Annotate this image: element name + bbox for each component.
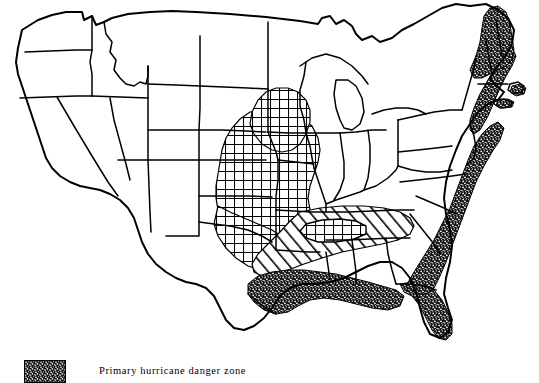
legend-item: Primary hurricane danger zone (24, 360, 246, 383)
zone-secondary-hatch-pocket (300, 219, 366, 242)
legend-label-primary-hurricane-danger-zone: Primary hurricane danger zone (99, 360, 246, 381)
stipple-swatch-svg (25, 361, 65, 382)
us-hazard-map (0, 0, 539, 348)
map-page: Primary hurricane danger zone (0, 0, 539, 383)
map-legend: Primary hurricane danger zone (0, 348, 539, 383)
stipple-swatch-icon (24, 360, 66, 383)
map-svg (0, 0, 539, 348)
